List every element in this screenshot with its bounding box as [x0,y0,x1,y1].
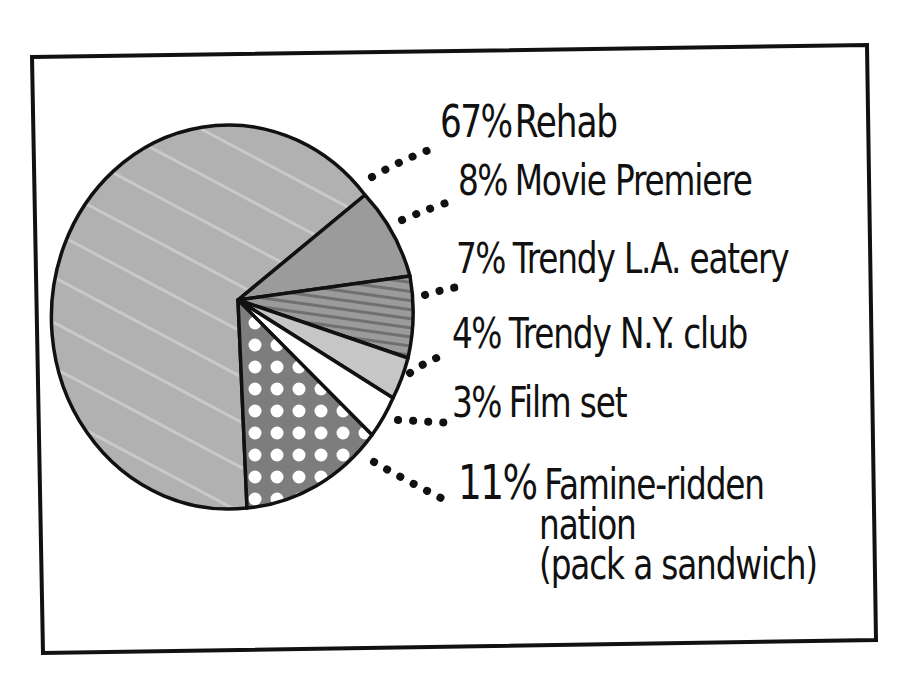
label-ny-text: Trendy N.Y. club [509,309,748,358]
label-rehab-percent: 67% [440,96,512,147]
label-ny-percent: 4% [452,309,501,358]
label-famine-line2: nation [539,505,817,545]
label-movie-percent: 8% [458,156,507,205]
label-film-set: 3%Film set [452,382,626,424]
label-trendy-ny-club: 4%Trendy N.Y. club [452,313,747,355]
label-rehab: 67%Rehab [440,100,617,144]
label-la-percent: 7% [456,234,505,283]
label-movie-premiere: 8%Movie Premiere [458,160,752,202]
label-rehab-text: Rehab [515,96,617,147]
label-la-text: Trendy L.A. eatery [513,234,789,283]
label-movie-text: Movie Premiere [515,156,752,205]
label-famine-percent: 11% [458,454,537,510]
label-famine-line3: (pack a sandwich) [539,545,817,585]
label-trendy-la-eatery: 7%Trendy L.A. eatery [456,238,788,280]
label-famine-ridden-nation: 11%Famine-ridden nation (pack a sandwich… [458,462,817,585]
label-film-percent: 3% [452,378,501,427]
label-film-text: Film set [509,378,627,427]
